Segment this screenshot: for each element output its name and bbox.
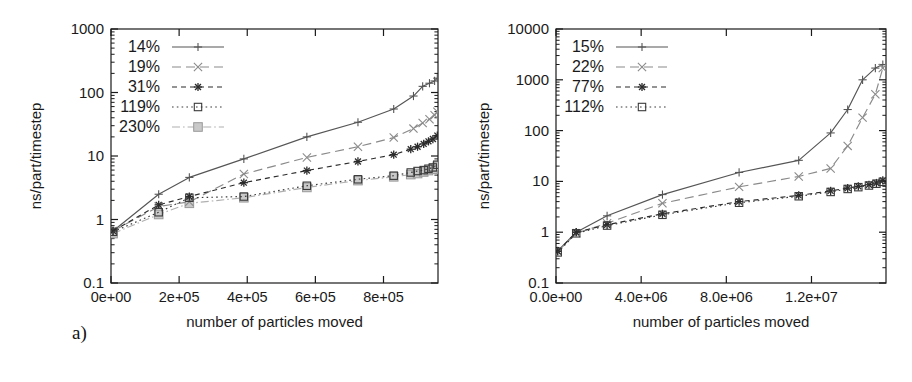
x-tick-label: 1.2e+07 — [785, 289, 838, 305]
y-tick-label: 1000 — [71, 20, 104, 37]
legend-label: 77% — [572, 78, 604, 95]
legend-marker — [194, 103, 201, 110]
y-tick-label: 10000 — [507, 20, 549, 37]
y-tick-label: 1 — [541, 223, 549, 240]
series-31pct — [109, 131, 441, 235]
x-tick-label: 4e+05 — [227, 289, 268, 305]
y-axis-label: ns/part/timestep — [27, 103, 44, 210]
x-tick-label: 2e+05 — [159, 289, 200, 305]
plot-a-canvas: 0.111010010000e+002e+054e+056e+058e+05nu… — [0, 0, 456, 382]
legend-label: 14% — [128, 38, 160, 55]
x-axis-label: number of particles moved — [186, 313, 363, 330]
figure-two-panel-log-plots: 0.111010010000e+002e+054e+056e+058e+05nu… — [0, 0, 912, 382]
x-axis-label: number of particles moved — [633, 313, 810, 330]
x-tick-label: 6e+05 — [295, 289, 336, 305]
legend-label: 19% — [128, 58, 160, 75]
x-tick-label: 8.0e+06 — [700, 289, 753, 305]
legend-marker — [194, 83, 202, 91]
x-tick-label: 0.0e+00 — [530, 289, 583, 305]
panel-b: 0.11101001000100000.0e+004.0e+068.0e+061… — [456, 0, 912, 382]
legend-marker — [638, 103, 645, 110]
x-tick-label: 8e+05 — [363, 289, 404, 305]
series-230pct — [109, 162, 442, 238]
y-tick-label: 1 — [96, 211, 104, 228]
y-tick-label: 1000 — [516, 71, 549, 88]
legend-label: 15% — [572, 38, 604, 55]
x-tick-label: 0e+00 — [91, 289, 132, 305]
y-tick-label: 100 — [524, 122, 549, 139]
legend-label: 119% — [120, 98, 160, 115]
y-tick-label: 100 — [79, 84, 104, 101]
y-tick-label: 10 — [87, 147, 104, 164]
panel-a-caption: a) — [72, 322, 87, 344]
legend-label: 22% — [572, 58, 604, 75]
panel-a: 0.111010010000e+002e+054e+056e+058e+05nu… — [0, 0, 456, 382]
y-axis-label: ns/part/timestep — [475, 103, 492, 210]
legend-marker — [638, 83, 646, 91]
legend-marker — [638, 43, 646, 51]
plot-b-canvas: 0.11101001000100000.0e+004.0e+068.0e+061… — [456, 0, 912, 382]
y-tick-label: 10 — [532, 172, 549, 189]
legend-label: 112% — [564, 98, 604, 115]
x-tick-label: 4.0e+06 — [615, 289, 668, 305]
legend-marker — [194, 43, 202, 51]
legend-label: 31% — [128, 78, 160, 95]
legend-marker — [194, 123, 203, 132]
legend-label: 230% — [119, 118, 160, 135]
